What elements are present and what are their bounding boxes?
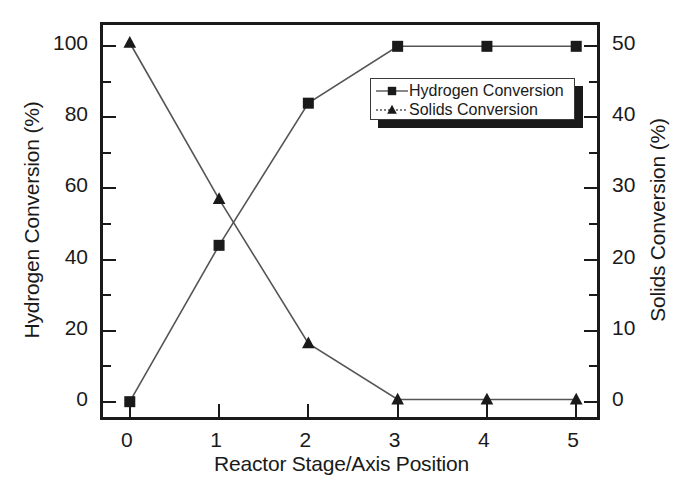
marker-triangle xyxy=(481,393,494,405)
chart-legend: Hydrogen ConversionSolids Conversion xyxy=(370,78,575,120)
axis-tick xyxy=(589,294,597,296)
marker-triangle xyxy=(387,104,397,113)
y-axis-right-tick-label: 40 xyxy=(612,102,635,126)
axis-tick xyxy=(103,187,116,189)
axis-tick xyxy=(589,365,597,367)
marker-triangle xyxy=(213,192,226,204)
marker-square xyxy=(303,98,314,109)
marker-triangle xyxy=(570,393,583,405)
axis-tick xyxy=(103,116,116,118)
marker-square xyxy=(481,41,492,52)
y-axis-right-tick-label: 50 xyxy=(612,31,635,55)
axis-tick xyxy=(397,404,399,417)
marker-square xyxy=(388,86,396,94)
marker-square xyxy=(214,240,225,251)
y-axis-right-tick-label: 20 xyxy=(612,245,635,269)
y-axis-left-tick-label: 20 xyxy=(65,316,88,340)
y-axis-left-tick-label: 100 xyxy=(53,31,88,55)
axis-tick xyxy=(103,223,111,225)
x-axis-tick-label: 1 xyxy=(210,428,222,452)
chart-figure: 020406080100 01020304050 012345 Hydrogen… xyxy=(0,0,683,497)
axis-tick xyxy=(486,404,488,417)
marker-triangle xyxy=(302,337,315,349)
axis-tick xyxy=(129,404,131,417)
y-axis-left-tick-label: 40 xyxy=(65,245,88,269)
y-axis-left-tick-label: 0 xyxy=(76,387,88,411)
axis-tick xyxy=(589,223,597,225)
axis-tick xyxy=(584,330,597,332)
y-axis-right-tick-label: 10 xyxy=(612,316,635,340)
legend-marker-triangle-icon xyxy=(375,102,409,118)
axis-tick xyxy=(103,401,116,403)
y-axis-left-title: Hydrogen Conversion (%) xyxy=(20,70,44,370)
y-axis-right-tick-label: 30 xyxy=(612,173,635,197)
axis-tick xyxy=(575,404,577,417)
axis-tick xyxy=(103,365,111,367)
x-axis-tick-label: 3 xyxy=(389,428,401,452)
marker-triangle xyxy=(123,36,136,48)
axis-tick xyxy=(584,187,597,189)
legend-item[interactable]: Solids Conversion xyxy=(375,100,568,119)
marker-square xyxy=(571,41,582,52)
axis-tick xyxy=(584,259,597,261)
axis-tick xyxy=(307,404,309,417)
legend-item[interactable]: Hydrogen Conversion xyxy=(375,81,568,100)
y-axis-right-title: Solids Conversion (%) xyxy=(646,70,670,370)
x-axis-title: Reactor Stage/Axis Position xyxy=(0,452,683,476)
legend-label: Solids Conversion xyxy=(409,102,538,118)
legend-marker-square-icon xyxy=(375,83,409,99)
marker-square xyxy=(392,41,403,52)
axis-tick xyxy=(103,45,116,47)
y-axis-right-tick-label: 0 xyxy=(612,387,624,411)
x-axis-tick-label: 5 xyxy=(567,428,579,452)
axis-tick xyxy=(103,259,116,261)
axis-tick xyxy=(103,294,111,296)
axis-tick xyxy=(103,330,116,332)
x-axis-tick-label: 0 xyxy=(121,428,133,452)
axis-tick xyxy=(589,81,597,83)
marker-triangle xyxy=(391,393,404,405)
y-axis-left-tick-label: 60 xyxy=(65,173,88,197)
axis-tick xyxy=(103,81,111,83)
axis-tick xyxy=(584,116,597,118)
axis-tick xyxy=(103,152,111,154)
axis-tick xyxy=(589,152,597,154)
x-axis-tick-label: 2 xyxy=(300,428,312,452)
x-axis-tick-label: 4 xyxy=(478,428,490,452)
axis-tick xyxy=(218,404,220,417)
y-axis-left-tick-label: 80 xyxy=(65,102,88,126)
axis-tick xyxy=(584,401,597,403)
axis-tick xyxy=(584,45,597,47)
legend-label: Hydrogen Conversion xyxy=(409,83,564,99)
